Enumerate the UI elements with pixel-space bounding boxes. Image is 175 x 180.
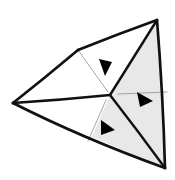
figure-canvas — [0, 0, 175, 180]
folded-triangle-diagram — [0, 0, 175, 180]
